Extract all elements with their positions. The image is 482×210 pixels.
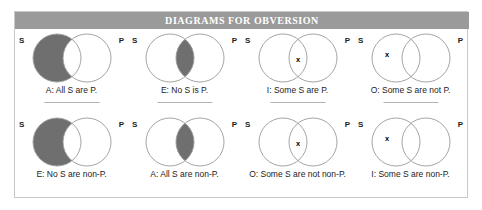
column-divider (383, 102, 438, 103)
figure-title-bar: DIAGRAMS FOR OBVERSION (15, 12, 469, 29)
diagram-cell: S P x O: Some S are not non-P. (241, 113, 354, 197)
venn-diagram: x (362, 32, 460, 84)
venn-diagram (23, 116, 121, 168)
obversion-diagram-figure: DIAGRAMS FOR OBVERSION S P (14, 11, 468, 198)
diagram-caption: O: Some S are not P. (354, 85, 467, 95)
page-title: DIAGRAMS FOR OBVERSION (165, 15, 319, 26)
venn-diagram (23, 32, 121, 84)
diagram-cell: S P (15, 113, 128, 197)
diagram-cell: S P A: All S are non-P. (128, 113, 241, 197)
diagram-cell: S P E: No S is P. (128, 29, 241, 113)
diagram-caption: I: Some S are non-P. (354, 169, 467, 179)
venn-diagram (136, 116, 234, 168)
diagram-caption: I: Some S are P. (241, 85, 354, 95)
diagram-caption: A: All S are non-P. (128, 169, 241, 179)
diagram-caption: E: No S is P. (128, 85, 241, 95)
venn-circle-s (372, 118, 420, 166)
diagram-cell: S P (15, 29, 128, 113)
diagram-caption: O: Some S are not non-P. (241, 169, 354, 179)
venn-diagram: x (249, 116, 347, 168)
diagram-cell: S P x I: Some S are P. (241, 29, 354, 113)
diagram-caption: A: All S are P. (15, 85, 128, 95)
diagram-caption: E: No S are non-P. (15, 169, 128, 179)
diagram-cell: S P x O: Some S are not P. (354, 29, 467, 113)
venn-circle-p (402, 118, 450, 166)
diagram-grid: S P (15, 29, 467, 197)
venn-diagram: x (362, 116, 460, 168)
venn-circle-p (402, 34, 450, 82)
venn-x-mark-intersection: x (295, 139, 300, 148)
diagram-cell: S P x I: Some S are non-P. (354, 113, 467, 197)
diagram-row-original: S P (15, 29, 467, 113)
diagram-row-obverted: S P (15, 113, 467, 197)
venn-circle-s (372, 34, 420, 82)
venn-x-mark-intersection: x (295, 55, 300, 64)
venn-diagram: x (249, 32, 347, 84)
venn-x-mark-left-only: x (384, 134, 389, 143)
column-divider (157, 102, 212, 103)
column-divider (44, 102, 99, 103)
venn-diagram (136, 32, 234, 84)
column-divider (270, 102, 325, 103)
venn-x-mark-left-only: x (384, 50, 389, 59)
